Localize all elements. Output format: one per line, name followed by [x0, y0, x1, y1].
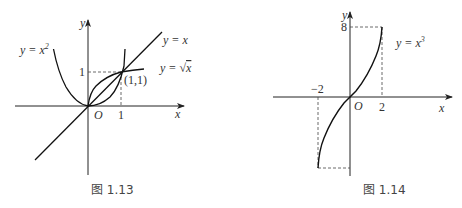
- figure-caption: 图 1.13: [91, 183, 134, 197]
- y-tick-8: 8: [341, 20, 347, 34]
- figure-1-14: y x O 2 −2 8 y = x3 图 1.14: [273, 8, 452, 197]
- y-axis-label: y: [79, 16, 86, 30]
- origin-label: O: [94, 108, 103, 122]
- x-tick-1: 1: [118, 108, 124, 122]
- x-axis-label: x: [174, 107, 181, 121]
- origin-label: O: [354, 99, 363, 113]
- label-y-eq-x-cubed: y = x3: [395, 35, 425, 50]
- point-label: (1,1): [124, 73, 147, 87]
- label-y-eq-sqrt-x: y = √x: [159, 61, 192, 75]
- figure-1-13: y x O 1 1 (1,1) y = x2 y = x y = √x 图 1.…: [15, 16, 192, 197]
- label-y-eq-x-squared: y = x2: [19, 42, 49, 57]
- x-tick-2: 2: [379, 100, 385, 114]
- figure-caption: 图 1.14: [363, 183, 406, 197]
- figures-canvas: y x O 1 1 (1,1) y = x2 y = x y = √x 图 1.…: [0, 0, 462, 208]
- x-axis-label: x: [438, 101, 445, 115]
- x-tick-neg2: −2: [311, 82, 324, 96]
- label-y-eq-x: y = x: [162, 33, 188, 47]
- y-tick-1: 1: [79, 65, 85, 79]
